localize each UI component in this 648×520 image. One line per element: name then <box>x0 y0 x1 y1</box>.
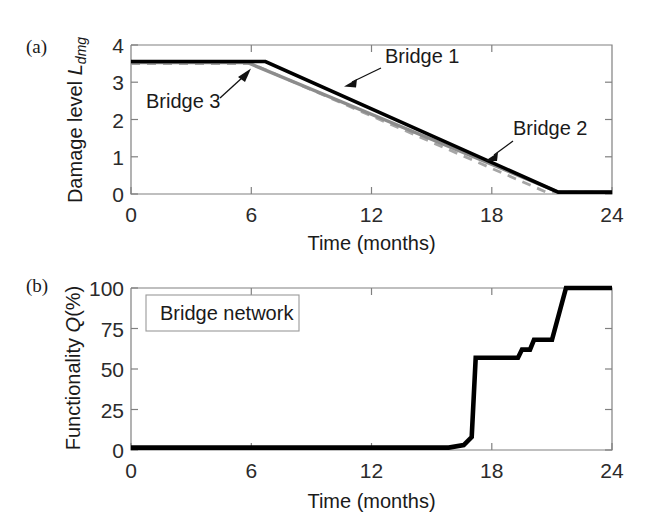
panel-b-y-axis-symbol: Q <box>62 317 84 333</box>
panel-a-y-axis-subscript: dmg <box>73 37 89 64</box>
annotation-bridge-3-label: Bridge 3 <box>146 90 221 112</box>
panel-b-xtick-6: 6 <box>245 459 257 482</box>
panel-b-ytick-25: 25 <box>101 399 124 422</box>
panel-b-ytick-75: 75 <box>101 318 124 341</box>
panel-b-x-axis-title: Time (months) <box>307 490 435 512</box>
panel-a-ytick-0: 0 <box>112 183 124 206</box>
annotation-bridge-3: Bridge 3 <box>146 69 251 113</box>
figure-container: (a) 0 <box>0 0 648 520</box>
panel-a-xtick-18: 18 <box>480 203 503 226</box>
panel-a-y-axis-symbol: L <box>64 64 86 75</box>
panel-a-damage-level-chart: 0 1 2 3 4 0 6 12 18 24 Time (months) Dam… <box>0 0 648 262</box>
panel-a-xtick-6: 6 <box>245 203 257 226</box>
panel-b-xtick-0: 0 <box>125 459 137 482</box>
panel-b-ytick-0: 0 <box>112 439 124 462</box>
panel-b-xtick-24: 24 <box>600 459 624 482</box>
panel-a-ytick-4: 4 <box>112 34 124 57</box>
svg-text:Damage level Ldmg: Damage level Ldmg <box>64 37 89 203</box>
panel-b-legend-box: Bridge network <box>146 295 299 331</box>
panel-b-legend-label: Bridge network <box>160 302 294 324</box>
panel-b-xtick-12: 12 <box>360 459 383 482</box>
panel-b-ytick-50: 50 <box>101 358 124 381</box>
svg-text:Functionality Q(%): Functionality Q(%) <box>62 286 84 451</box>
panel-a-y-axis-title-text: Damage level <box>64 75 86 203</box>
panel-b-y-axis-title: Functionality Q(%) <box>62 286 84 451</box>
panel-b-xtick-18: 18 <box>480 459 503 482</box>
annotation-bridge-2-label: Bridge 2 <box>513 117 588 139</box>
panel-b-functionality-chart: 0 25 50 75 100 0 6 12 18 24 Time (months… <box>0 258 648 520</box>
panel-b-y-axis-title-text: Functionality <box>62 332 84 450</box>
panel-b-ytick-100: 100 <box>89 277 124 300</box>
panel-b-y-axis-unit: (%) <box>62 286 84 317</box>
annotation-bridge-1-label: Bridge 1 <box>385 45 460 67</box>
panel-a-xtick-12: 12 <box>360 203 383 226</box>
annotation-bridge-2: Bridge 2 <box>485 117 588 161</box>
panel-a-ytick-2: 2 <box>112 109 124 132</box>
panel-a-xtick-24: 24 <box>600 203 624 226</box>
panel-a-y-axis-title: Damage level Ldmg <box>64 37 89 203</box>
panel-a-xtick-0: 0 <box>125 203 137 226</box>
panel-a-ytick-3: 3 <box>112 71 124 94</box>
panel-a-ytick-1: 1 <box>112 146 124 169</box>
panel-a-x-axis-title: Time (months) <box>307 232 435 254</box>
annotation-bridge-1: Bridge 1 <box>344 45 460 88</box>
